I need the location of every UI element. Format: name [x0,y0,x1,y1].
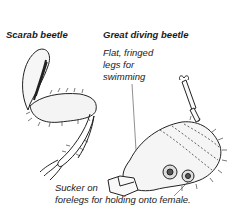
scarab-leg-drawing [23,49,97,180]
beetle-legs-illustration [0,0,231,209]
swimming-leader-line [132,84,136,150]
diving-beetle-leg-drawing [108,76,227,196]
